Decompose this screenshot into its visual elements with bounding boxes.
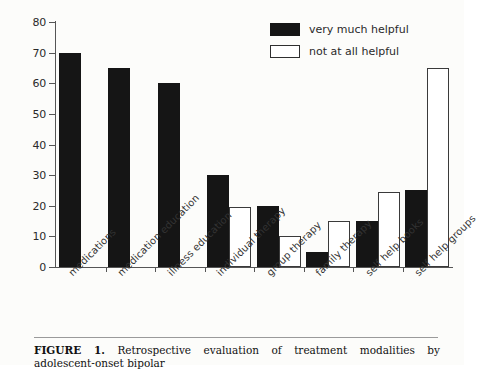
y-axis-tick bbox=[49, 114, 56, 115]
caption-divider bbox=[34, 337, 438, 338]
y-axis-tick bbox=[49, 175, 56, 176]
legend-swatch-dark bbox=[270, 23, 300, 36]
legend-swatch-light bbox=[270, 45, 300, 58]
x-axis-group-separator bbox=[106, 267, 107, 272]
figure-caption: FIGURE 1. Retrospective evaluation of tr… bbox=[34, 344, 440, 370]
y-axis-tick-label: 70 bbox=[18, 48, 46, 59]
legend-item: not at all helpful bbox=[270, 42, 440, 61]
y-axis-tick-label: 60 bbox=[18, 78, 46, 89]
chart-legend: very much helpfulnot at all helpful bbox=[270, 20, 440, 64]
bar-group bbox=[56, 22, 106, 267]
y-axis-tick-label: 20 bbox=[18, 201, 46, 212]
y-axis-tick bbox=[49, 267, 56, 268]
y-axis-tick-label: 50 bbox=[18, 109, 46, 120]
x-axis-group-separator bbox=[155, 267, 156, 272]
bar bbox=[59, 53, 81, 267]
legend-label: very much helpful bbox=[309, 23, 409, 36]
figure-caption-label: FIGURE 1. bbox=[34, 344, 105, 356]
y-axis-tick bbox=[49, 206, 56, 207]
x-axis-group-separator bbox=[254, 267, 255, 272]
y-axis-tick-label: 40 bbox=[18, 140, 46, 151]
y-axis-tick bbox=[49, 236, 56, 237]
y-axis-tick-label: 0 bbox=[18, 262, 46, 273]
y-axis-tick-label: 10 bbox=[18, 231, 46, 242]
x-axis-group-separator bbox=[353, 267, 354, 272]
x-axis-group-separator bbox=[304, 267, 305, 272]
x-axis-group-separator bbox=[403, 267, 404, 272]
y-axis-tick bbox=[49, 83, 56, 84]
y-axis-tick-label: 80 bbox=[18, 17, 46, 28]
y-axis-tick bbox=[49, 53, 56, 54]
y-axis-tick bbox=[49, 22, 56, 23]
legend-label: not at all helpful bbox=[309, 45, 399, 58]
legend-item: very much helpful bbox=[270, 20, 440, 39]
y-axis-tick-label: 30 bbox=[18, 170, 46, 181]
y-axis-tick bbox=[49, 145, 56, 146]
x-axis-group-separator bbox=[205, 267, 206, 272]
